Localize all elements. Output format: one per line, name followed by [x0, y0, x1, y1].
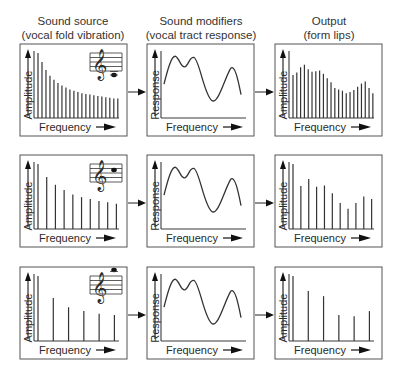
right-arrow-icon — [138, 200, 146, 207]
panel-r3-c1: AmplitudeFrequency𝄞 — [20, 267, 127, 359]
panel-r3-c3: AmplitudeFrequency — [275, 267, 382, 359]
panel-r2-c2: ResponseFrequency — [147, 155, 254, 247]
panel-r3-c2: ResponseFrequency — [147, 267, 254, 359]
x-axis-label: Frequency — [39, 344, 91, 356]
panel-r2-c3: AmplitudeFrequency — [275, 155, 382, 247]
treble-clef-icon: 𝄞 — [92, 49, 107, 81]
right-arrow-icon — [138, 312, 146, 319]
y-axis-label: Response — [149, 70, 161, 120]
x-axis-label: Frequency — [166, 344, 218, 356]
x-axis-label: Frequency — [294, 121, 346, 133]
treble-clef-icon: 𝄞 — [92, 272, 107, 304]
y-axis-label: Amplitude — [22, 294, 34, 343]
y-axis-label: Amplitude — [277, 71, 289, 120]
y-axis-label: Amplitude — [22, 71, 34, 120]
panel-r2-c1: AmplitudeFrequency𝄞 — [20, 155, 127, 247]
source-filter-diagram: AmplitudeFrequency𝄞ResponseFrequencyAmpl… — [0, 0, 395, 375]
panel-r1-c2: ResponseFrequency — [147, 44, 254, 136]
note-head-icon — [111, 168, 117, 172]
panel-r1-c1: AmplitudeFrequency𝄞 — [20, 44, 127, 136]
y-axis-label: Amplitude — [277, 182, 289, 231]
right-arrow-icon — [266, 89, 274, 96]
right-arrow-icon — [266, 312, 274, 319]
x-axis-label: Frequency — [166, 232, 218, 244]
x-axis-label: Frequency — [166, 121, 218, 133]
x-axis-label: Frequency — [294, 344, 346, 356]
x-axis-label: Frequency — [39, 232, 91, 244]
x-axis-label: Frequency — [39, 121, 91, 133]
y-axis-label: Response — [149, 293, 161, 343]
panel-r1-c3: AmplitudeFrequency — [275, 44, 382, 136]
x-axis-label: Frequency — [294, 232, 346, 244]
y-axis-label: Amplitude — [22, 182, 34, 231]
y-axis-label: Amplitude — [277, 294, 289, 343]
treble-clef-icon: 𝄞 — [92, 160, 107, 192]
right-arrow-icon — [266, 200, 274, 207]
y-axis-label: Response — [149, 181, 161, 231]
right-arrow-icon — [138, 89, 146, 96]
